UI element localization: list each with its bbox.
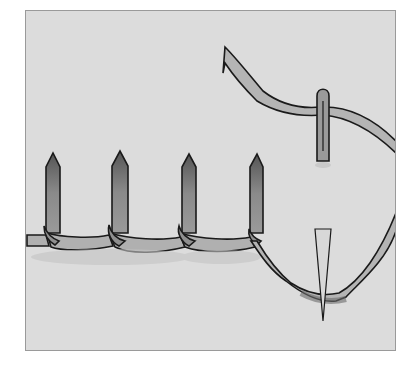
stitch-4 — [250, 154, 263, 233]
stitch-2 — [112, 151, 128, 233]
upper-thread — [223, 47, 396, 153]
needle-icon — [315, 229, 331, 321]
baseline-shadow — [31, 249, 261, 265]
stitch-1 — [46, 153, 60, 233]
stitch-illustration — [26, 11, 396, 351]
baseline-thread — [27, 233, 255, 252]
pin-icon — [317, 89, 329, 161]
stitch-3 — [182, 154, 196, 233]
upright-stitches — [46, 151, 263, 233]
illustration-frame — [25, 10, 396, 351]
